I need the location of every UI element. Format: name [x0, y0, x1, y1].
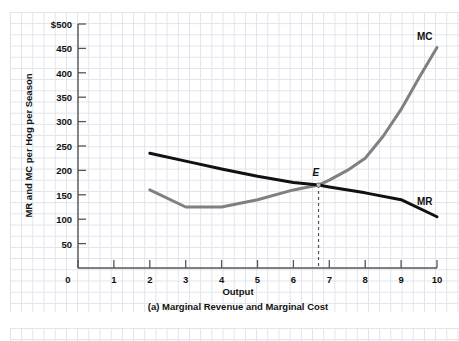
x-tick-label-2: 2	[138, 274, 162, 285]
x-tick-label-6: 6	[281, 274, 305, 285]
x-tick-label-0: 0	[56, 274, 80, 285]
x-tick-label-9: 9	[389, 274, 413, 285]
x-tick-label-7: 7	[317, 274, 341, 285]
x-tick-label-4: 4	[210, 274, 234, 285]
y-tick-label-50: 50	[30, 239, 72, 250]
equilibrium-point-marker	[316, 183, 320, 187]
x-tick-label-5: 5	[246, 274, 270, 285]
x-tick-label-10: 10	[425, 274, 449, 285]
equilibrium-label: E	[313, 167, 320, 178]
y-tick-label-450: 450	[30, 43, 72, 54]
x-tick-label-1: 1	[102, 274, 126, 285]
y-tick-label-300: 300	[30, 116, 72, 127]
y-tick-label-200: 200	[30, 165, 72, 176]
x-axis-title: Output	[68, 286, 408, 297]
y-axis-title: MR and MC per Hog per Season	[23, 46, 34, 246]
x-tick-label-8: 8	[353, 274, 377, 285]
figure-caption: (a) Marginal Revenue and Marginal Cost	[48, 301, 428, 312]
y-tick-label-500: $500	[30, 19, 72, 30]
y-tick-label-100: 100	[30, 214, 72, 225]
y-tick-label-150: 150	[30, 190, 72, 201]
series-label-mr: MR	[417, 196, 433, 207]
x-axis-ticks	[78, 260, 437, 268]
y-tick-label-250: 250	[30, 141, 72, 152]
x-tick-label-3: 3	[174, 274, 198, 285]
y-tick-label-400: 400	[30, 68, 72, 79]
y-axis-ticks	[78, 24, 86, 244]
series-label-mc: MC	[417, 31, 433, 42]
y-tick-label-350: 350	[30, 92, 72, 103]
figure-marginal-revenue-marginal-cost: $500 450 400 350 300 250 200 150 100 50 …	[0, 0, 459, 341]
